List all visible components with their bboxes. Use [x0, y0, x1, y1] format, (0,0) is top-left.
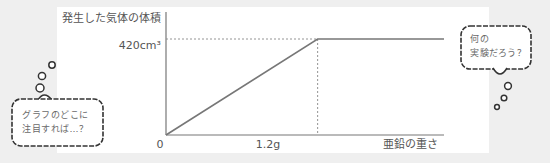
origin-label: 0 [157, 138, 164, 151]
left-bubble-text: グラフのどこに 注目すれば…？ [22, 108, 89, 136]
thought-dot [36, 84, 44, 92]
left-bubble-line: グラフのどこに [22, 108, 89, 122]
thought-dot [505, 83, 512, 90]
chart: 発生した気体の体積 亜鉛の重さ 0 1.2g 420cm³ [0, 0, 550, 163]
bubble-tail [493, 68, 507, 74]
right-bubble-text: 何の 実験だろう？ [470, 32, 526, 60]
thought-dot [495, 105, 500, 110]
x-tick-label: 1.2g [256, 138, 280, 151]
right-bubble-line: 何の [470, 32, 526, 46]
thought-dot [501, 95, 507, 101]
y-tick-label: 420cm³ [119, 39, 161, 52]
series-line [166, 39, 444, 135]
x-axis-label: 亜鉛の重さ [383, 137, 438, 151]
right-bubble-line: 実験だろう？ [470, 46, 526, 60]
y-axis-label: 発生した気体の体積 [62, 11, 161, 25]
left-bubble-line: 注目すれば…？ [22, 122, 89, 136]
thought-dot [38, 72, 45, 79]
thought-dot [49, 62, 55, 68]
